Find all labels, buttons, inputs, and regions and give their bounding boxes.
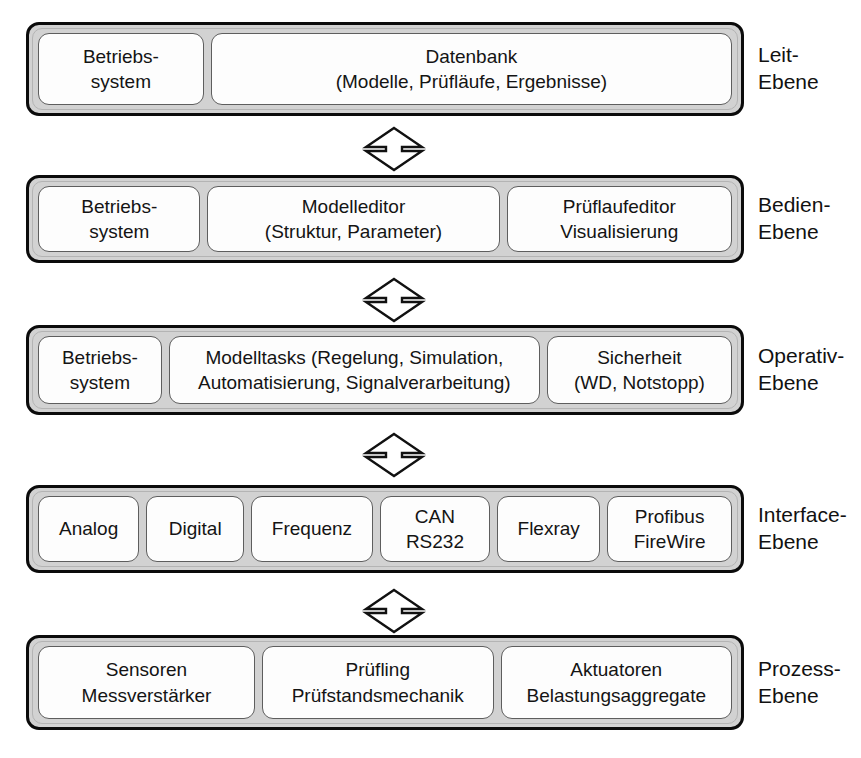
connector-arrow-leit-bedien	[362, 126, 426, 172]
layer-row-bedien: Betriebs- systemModelleditor (Struktur, …	[26, 175, 830, 263]
module-prozess-aktuatoren[interactable]: Aktuatoren Belastungsaggregate	[501, 646, 733, 719]
bidirectional-arrow-icon	[362, 277, 426, 323]
module-prozess-sensoren[interactable]: Sensoren Messverstärker	[38, 646, 255, 719]
module-interface-digital[interactable]: Digital	[146, 496, 244, 562]
layer-row-operativ: Betriebs- systemModelltasks (Regelung, S…	[26, 325, 844, 415]
layer-row-leit: Betriebs- systemDatenbank (Modelle, Prüf…	[26, 22, 819, 116]
layer-caption-operativ: Operativ- Ebene	[758, 343, 844, 397]
layer-row-prozess: Sensoren MessverstärkerPrüfling Prüfstan…	[26, 635, 841, 730]
layer-caption-interface: Interface- Ebene	[758, 502, 847, 556]
module-interface-profibus-firewire[interactable]: Profibus FireWire	[607, 496, 732, 562]
module-leit-datenbank[interactable]: Datenbank (Modelle, Prüfläufe, Ergebniss…	[211, 33, 732, 105]
module-interface-flexray[interactable]: Flexray	[497, 496, 600, 562]
layer-container-interface: AnalogDigitalFrequenzCAN RS232FlexrayPro…	[26, 485, 744, 573]
module-interface-frequenz[interactable]: Frequenz	[251, 496, 372, 562]
connector-arrow-operativ-interface	[362, 432, 426, 478]
layer-caption-leit: Leit- Ebene	[758, 42, 819, 96]
bidirectional-arrow-icon	[362, 126, 426, 172]
module-interface-can-rs232[interactable]: CAN RS232	[380, 496, 491, 562]
bidirectional-arrow-icon	[362, 588, 426, 634]
module-operativ-modelltasks[interactable]: Modelltasks (Regelung, Simulation, Autom…	[169, 336, 540, 404]
module-bedien-pruflaufeditor[interactable]: Prüflaufeditor Visualisierung	[507, 186, 732, 252]
layer-container-operativ: Betriebs- systemModelltasks (Regelung, S…	[26, 325, 744, 415]
connector-arrow-interface-prozess	[362, 588, 426, 634]
module-bedien-betriebssystem[interactable]: Betriebs- system	[38, 186, 200, 252]
layer-caption-prozess: Prozess- Ebene	[758, 656, 841, 710]
module-bedien-modelleditor[interactable]: Modelleditor (Struktur, Parameter)	[207, 186, 499, 252]
module-prozess-prufling[interactable]: Prüfling Prüfstandsmechanik	[262, 646, 494, 719]
module-interface-analog[interactable]: Analog	[38, 496, 139, 562]
connector-arrow-bedien-operativ	[362, 277, 426, 323]
module-operativ-betriebssystem[interactable]: Betriebs- system	[38, 336, 162, 404]
layer-row-interface: AnalogDigitalFrequenzCAN RS232FlexrayPro…	[26, 485, 847, 573]
layer-architecture-diagram: Betriebs- systemDatenbank (Modelle, Prüf…	[0, 0, 861, 758]
bidirectional-arrow-icon	[362, 432, 426, 478]
layer-container-prozess: Sensoren MessverstärkerPrüfling Prüfstan…	[26, 635, 744, 730]
module-leit-betriebssystem[interactable]: Betriebs- system	[38, 33, 204, 105]
module-operativ-sicherheit[interactable]: Sicherheit (WD, Notstopp)	[547, 336, 732, 404]
layer-caption-bedien: Bedien- Ebene	[758, 192, 830, 246]
layer-container-bedien: Betriebs- systemModelleditor (Struktur, …	[26, 175, 744, 263]
layer-container-leit: Betriebs- systemDatenbank (Modelle, Prüf…	[26, 22, 744, 116]
